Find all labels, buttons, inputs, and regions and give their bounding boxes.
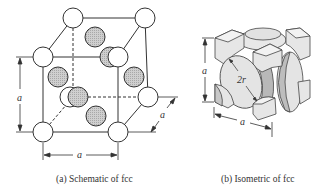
isometric-fcc <box>202 28 310 137</box>
face-atom-left <box>48 67 68 87</box>
face-atom-right <box>124 67 144 87</box>
corner-atom-back-top-right <box>135 8 155 28</box>
fcc-diagrams: a a a <box>0 0 325 191</box>
face-atom-bottom <box>86 106 106 126</box>
figure: a a a <box>0 0 325 191</box>
label-depth-a: a <box>160 109 165 120</box>
corner-atom-back-bottom-right <box>138 87 158 107</box>
label-horizontal-a-iso: a <box>240 116 245 127</box>
face-atom-back <box>68 87 88 107</box>
corner-atom-front-top-right <box>108 47 128 67</box>
face-atom-top <box>85 27 105 47</box>
caption-schematic: (a) Schematic of fcc <box>56 174 133 184</box>
label-vertical-a-iso: a <box>202 65 207 76</box>
label-2r: 2r <box>237 74 246 85</box>
caption-isometric: (b) Isometric of fcc <box>221 174 295 184</box>
corner-atom-back-top-left <box>63 8 83 28</box>
corner-atom-front-top-left <box>33 47 53 67</box>
label-vertical-a: a <box>17 92 22 103</box>
schematic-fcc <box>16 8 178 160</box>
corner-atom-front-bottom-right <box>108 122 128 142</box>
corner-atom-front-bottom-left <box>33 122 53 142</box>
label-horizontal-a: a <box>77 149 82 160</box>
